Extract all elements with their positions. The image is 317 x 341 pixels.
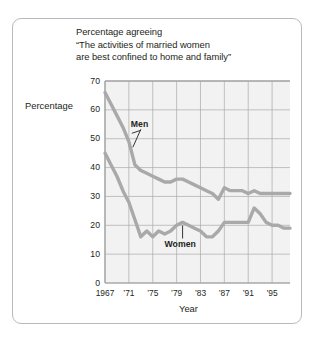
series-label-women: Women	[165, 239, 196, 249]
y-tick-50: 50	[76, 133, 100, 143]
y-tick-20: 20	[76, 220, 100, 230]
x-axis-title-text: Year	[179, 303, 198, 314]
x-tick-95: ’95	[257, 288, 287, 298]
y-tick-60: 60	[76, 104, 100, 114]
series-label-men: Men	[131, 119, 148, 129]
figure-container: Percentage agreeing “The activities of m…	[0, 0, 317, 341]
y-tick-40: 40	[76, 162, 100, 172]
y-tick-0: 0	[76, 278, 100, 288]
x-axis-title: Year	[0, 303, 317, 314]
y-tick-30: 30	[76, 191, 100, 201]
plot-background	[105, 81, 290, 283]
y-tick-10: 10	[76, 249, 100, 259]
y-tick-70: 70	[76, 76, 100, 86]
